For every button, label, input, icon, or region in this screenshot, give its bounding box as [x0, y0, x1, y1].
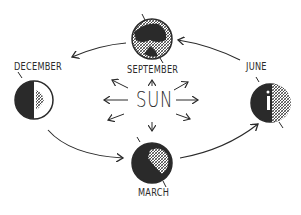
orbit-arrow-march-to-june: [180, 124, 258, 158]
earth-march-icon: [132, 137, 172, 187]
orbit-arrow-june-to-september: [178, 40, 240, 60]
earth-june-icon: [251, 77, 291, 128]
sun-ray-upright: [174, 82, 188, 90]
seasons-diagram: SEPTEMBER JUNE MARCH DECEMBER SUN: [0, 0, 301, 215]
earth-september-icon: [132, 14, 172, 63]
earth-december-icon: [15, 72, 53, 119]
sun-ray-downright: [176, 114, 190, 119]
orbit-arrow-september-to-december: [72, 43, 126, 57]
label-december: DECEMBER: [14, 61, 62, 72]
label-march: MARCH: [138, 187, 169, 198]
sun-ray-downleft: [108, 114, 124, 120]
sun-label: SUN: [136, 87, 173, 112]
sun-ray-upleft: [112, 80, 128, 88]
label-june: JUNE: [246, 61, 267, 72]
label-september: SEPTEMBER: [127, 64, 178, 75]
orbit-arrow-december-to-march: [48, 130, 123, 158]
